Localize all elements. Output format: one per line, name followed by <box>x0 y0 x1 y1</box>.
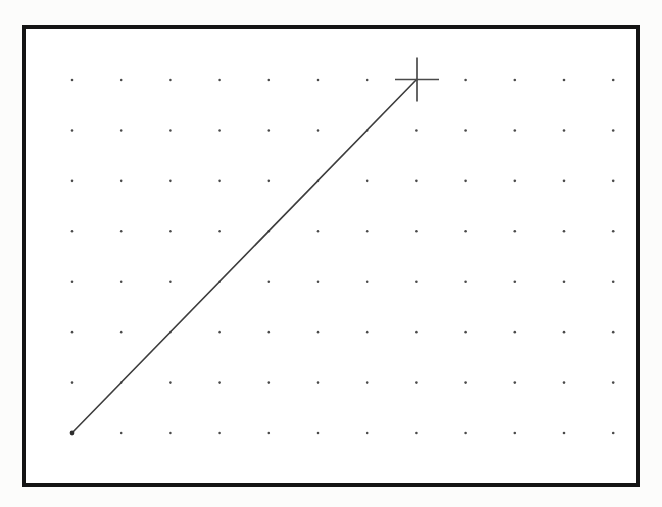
grid-dot <box>120 129 123 132</box>
grid-dot <box>218 180 221 183</box>
grid-dot <box>218 230 221 233</box>
grid-dot <box>464 280 467 283</box>
grid-dot <box>317 230 320 233</box>
grid-dot <box>612 230 615 233</box>
grid-dot <box>563 180 566 183</box>
grid-dot <box>563 381 566 384</box>
grid-dot <box>169 180 172 183</box>
grid-dot <box>563 79 566 82</box>
grid-dot <box>169 381 172 384</box>
grid-dot <box>317 331 320 334</box>
grid-dot <box>120 331 123 334</box>
grid-dot <box>169 432 172 435</box>
grid-dot <box>218 331 221 334</box>
grid-dot <box>563 280 566 283</box>
drawing-canvas[interactable] <box>0 0 662 507</box>
grid-dot <box>71 331 74 334</box>
grid-dot <box>317 432 320 435</box>
grid-dot <box>169 79 172 82</box>
page-background <box>0 0 662 507</box>
grid-dot <box>464 79 467 82</box>
grid-dot <box>317 280 320 283</box>
grid-dot <box>366 331 369 334</box>
grid-dot <box>415 230 418 233</box>
grid-dot <box>317 129 320 132</box>
line-start-anchor <box>70 431 75 436</box>
grid-dot <box>514 331 517 334</box>
grid-dot <box>366 432 369 435</box>
grid-dot <box>120 180 123 183</box>
grid-dot <box>218 432 221 435</box>
grid-dot <box>71 280 74 283</box>
grid-dot <box>415 381 418 384</box>
grid-dot <box>415 180 418 183</box>
grid-dot <box>366 180 369 183</box>
grid-dot <box>366 381 369 384</box>
grid-dot <box>563 432 566 435</box>
grid-dot <box>612 180 615 183</box>
grid-dot <box>415 331 418 334</box>
grid-dot <box>612 280 615 283</box>
grid-dot <box>268 331 271 334</box>
grid-dot <box>464 432 467 435</box>
grid-dot <box>268 381 271 384</box>
grid-dot <box>169 280 172 283</box>
grid-dot <box>71 79 74 82</box>
grid-dot <box>514 129 517 132</box>
grid-dot <box>218 79 221 82</box>
grid-dot <box>563 230 566 233</box>
grid-dot <box>612 79 615 82</box>
grid-dot <box>120 79 123 82</box>
grid-dot <box>71 381 74 384</box>
grid-dot <box>71 230 74 233</box>
grid-dot <box>218 129 221 132</box>
grid-dot <box>120 230 123 233</box>
grid-dot <box>415 280 418 283</box>
grid-dot <box>268 129 271 132</box>
grid-dot <box>268 180 271 183</box>
grid-dot <box>464 230 467 233</box>
grid-dot <box>169 129 172 132</box>
grid-dot <box>464 381 467 384</box>
grid-dot <box>514 79 517 82</box>
grid-dot <box>415 129 418 132</box>
grid-dot <box>563 331 566 334</box>
grid-dot <box>268 79 271 82</box>
grid-dot <box>464 331 467 334</box>
grid-dot <box>514 432 517 435</box>
grid-dot <box>464 129 467 132</box>
grid-dot <box>71 180 74 183</box>
grid-dot <box>317 79 320 82</box>
grid-dot <box>71 129 74 132</box>
canvas-frame-border <box>24 27 638 485</box>
grid-dot <box>317 381 320 384</box>
grid-dot <box>514 381 517 384</box>
grid-dot <box>366 230 369 233</box>
grid-dot <box>514 280 517 283</box>
grid-dot <box>169 230 172 233</box>
grid-dot <box>415 432 418 435</box>
grid-dot <box>120 280 123 283</box>
grid-dot <box>218 381 221 384</box>
grid-dot <box>612 432 615 435</box>
grid-dot <box>268 280 271 283</box>
grid-dot <box>514 180 517 183</box>
grid-dot <box>612 129 615 132</box>
grid-dot <box>514 230 517 233</box>
grid-dot <box>366 79 369 82</box>
grid-dot <box>464 180 467 183</box>
grid-dot <box>366 280 369 283</box>
grid-dot <box>612 331 615 334</box>
grid-dot <box>563 129 566 132</box>
grid-dot <box>120 432 123 435</box>
grid-dot <box>268 432 271 435</box>
grid-dot <box>612 381 615 384</box>
